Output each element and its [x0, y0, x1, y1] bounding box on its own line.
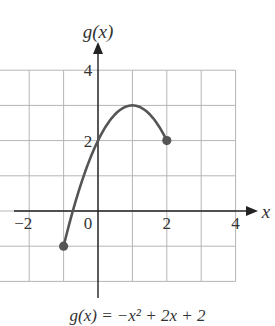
x-tick-label: 2 — [163, 214, 172, 233]
x-tick-label: 4 — [231, 214, 240, 233]
y-tick-label: 4 — [84, 61, 93, 80]
grid — [0, 70, 236, 281]
endpoint-dot — [59, 242, 68, 251]
y-axis-label: g(x) — [83, 21, 114, 43]
function-caption: g(x) = −x² + 2x + 2 — [0, 306, 275, 326]
x-tick-label: 0 — [84, 214, 93, 233]
endpoint-dot — [162, 136, 171, 145]
y-tick-label: 2 — [84, 132, 93, 151]
x-axis-label: x — [261, 201, 271, 222]
axes — [14, 42, 258, 298]
x-axis-arrow-icon — [246, 206, 258, 216]
y-axis-arrow-icon — [93, 42, 103, 54]
tick-labels: −202424 — [14, 61, 240, 233]
endpoints — [59, 136, 171, 251]
x-tick-label: −2 — [14, 214, 32, 233]
